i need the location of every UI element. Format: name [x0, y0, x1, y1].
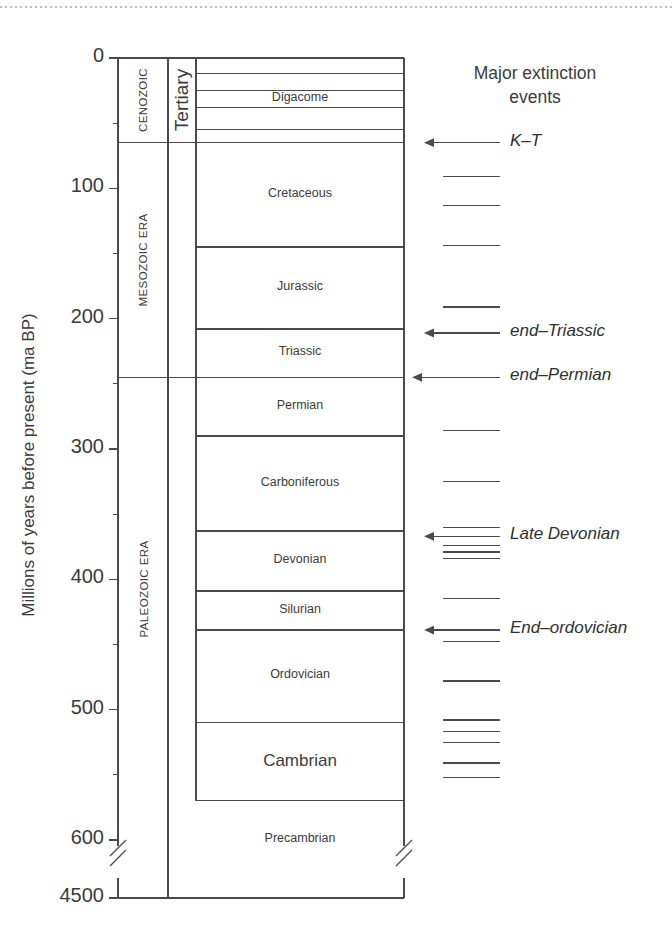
y-tick-label-100: 100 — [8, 174, 104, 197]
extinction-header-line2: events — [420, 86, 650, 110]
period-label-carboniferous: Carboniferous — [196, 475, 404, 489]
extinction-arrow-head — [424, 138, 434, 147]
period-label-devonian: Devonian — [196, 552, 404, 566]
geological-timescale-figure: Millions of years before present (ma BP)… — [0, 0, 672, 940]
period-label-cambrian: Cambrian — [196, 751, 404, 771]
extinction-header-line1: Major extinction — [420, 62, 650, 86]
y-tick-label-600: 600 — [8, 826, 104, 849]
period-label-cretaceous: Cretaceous — [196, 186, 404, 200]
extinction-arrow-head — [424, 329, 434, 338]
extinction-label-k-t: K–T — [510, 131, 541, 151]
extinction-label-end-ordovician: End–ordovician — [510, 618, 627, 638]
timescale-vector-layer — [0, 0, 672, 940]
period-label-tertiary: Tertiary — [171, 69, 193, 131]
axis-break-right-2 — [396, 850, 412, 866]
extinction-label-late-devonian: Late Devonian — [510, 524, 620, 544]
era-label-paleozoic-era: PALEOZOIC ERA — [137, 541, 149, 638]
extinction-events-header: Major extinction events — [420, 62, 650, 109]
period-label-triassic: Triassic — [196, 344, 404, 358]
y-tick-label-500: 500 — [8, 696, 104, 719]
extinction-arrow-head — [412, 373, 422, 382]
period-label-silurian: Silurian — [196, 602, 404, 616]
period-label-ordovician: Ordovician — [196, 667, 404, 681]
extinction-label-end-permian: end–Permian — [510, 365, 611, 385]
y-tick-label-200: 200 — [8, 305, 104, 328]
axis-break-left-2 — [110, 850, 126, 866]
era-label-mesozoic-era: MESOZOIC ERA — [137, 214, 149, 307]
extinction-arrow-head — [424, 532, 434, 541]
extinction-label-end-triassic: end–Triassic — [510, 321, 605, 341]
extinction-arrow-head — [424, 626, 434, 635]
period-label-jurassic: Jurassic — [196, 279, 404, 293]
y-tick-label-300: 300 — [8, 435, 104, 458]
y-tick-label-0: 0 — [8, 44, 104, 67]
y-tick-label-400: 400 — [8, 565, 104, 588]
epoch-label-digacome: Digacome — [196, 90, 404, 104]
period-label-precambrian: Precambrian — [196, 831, 404, 845]
y-tick-label-4500: 4500 — [8, 884, 104, 907]
period-label-permian: Permian — [196, 398, 404, 412]
era-label-cenozoic: CENOZOIC — [137, 68, 149, 132]
